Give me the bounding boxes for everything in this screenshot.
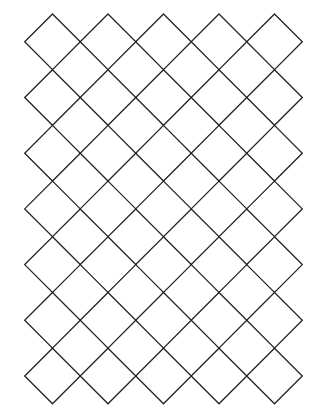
diamond-cell	[191, 293, 247, 349]
diamond-grid	[0, 0, 320, 419]
diamond-cell	[80, 293, 136, 349]
diamond-cell	[191, 125, 247, 181]
diamond-cell	[25, 237, 81, 293]
diamond-cell	[136, 181, 192, 237]
diamond-cell	[80, 237, 136, 293]
diamond-cell	[191, 348, 247, 404]
diamond-cell	[191, 237, 247, 293]
diamond-cell	[191, 181, 247, 237]
diamond-cell	[25, 181, 81, 237]
diamond-cell	[80, 348, 136, 404]
diamond-cell	[80, 70, 136, 126]
diamond-cell	[191, 14, 247, 70]
diamond-cell	[191, 70, 247, 126]
diamond-cell	[247, 181, 303, 237]
diamond-cell	[25, 125, 81, 181]
diamond-cell	[80, 125, 136, 181]
diamond-cell	[247, 237, 303, 293]
diamond-cell	[25, 14, 81, 70]
diamond-cell	[25, 70, 81, 126]
diamond-cell	[136, 237, 192, 293]
diamond-cell	[247, 125, 303, 181]
diamond-cell	[247, 70, 303, 126]
diamond-cell	[136, 348, 192, 404]
diamond-cell	[247, 14, 303, 70]
diamond-cell	[25, 348, 81, 404]
diamond-cell	[136, 14, 192, 70]
diamond-cell	[136, 70, 192, 126]
diamond-cell	[247, 348, 303, 404]
diamond-cell	[25, 293, 81, 349]
diamond-cell	[80, 181, 136, 237]
diamond-cell	[136, 125, 192, 181]
diamond-cell	[136, 293, 192, 349]
diamond-cell	[80, 14, 136, 70]
diamond-cell	[247, 293, 303, 349]
